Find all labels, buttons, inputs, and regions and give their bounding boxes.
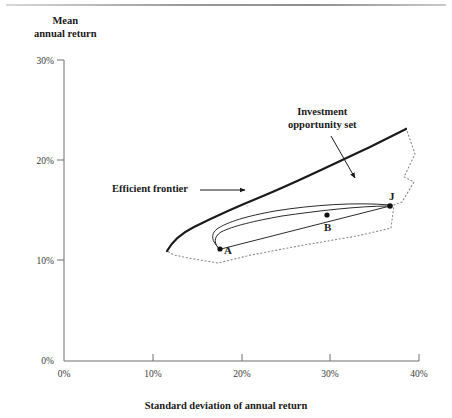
y-tick-10: 10% bbox=[37, 256, 55, 266]
y-axis-ticks bbox=[57, 60, 64, 260]
y-tick-0: 0% bbox=[41, 356, 54, 366]
x-tick-20: 20% bbox=[233, 369, 251, 379]
opportunity-set-boundary bbox=[167, 128, 415, 263]
x-tick-30: 30% bbox=[321, 369, 339, 379]
x-tick-40: 40% bbox=[410, 369, 428, 379]
portfolio-curve-upper bbox=[213, 204, 390, 248]
chart-figure: Mean annual return Standard deviation of… bbox=[0, 0, 452, 418]
y-tick-30: 30% bbox=[37, 56, 55, 66]
marker-a bbox=[217, 246, 222, 251]
axis-lines bbox=[64, 60, 419, 361]
y-tick-labels: 0% 10% 20% 30% bbox=[37, 56, 55, 366]
x-tick-labels: 0% 10% 20% 30% 40% bbox=[58, 369, 428, 379]
x-tick-0: 0% bbox=[58, 369, 71, 379]
scan-speck bbox=[246, 205, 248, 207]
x-axis-ticks bbox=[153, 354, 419, 361]
chart-canvas: 0% 10% 20% 30% 0% 10% 20% 30% 40% bbox=[0, 0, 452, 418]
investment-set-leader bbox=[331, 136, 355, 178]
marker-j bbox=[387, 203, 393, 209]
x-tick-10: 10% bbox=[144, 369, 162, 379]
y-tick-20: 20% bbox=[37, 156, 55, 166]
marker-b bbox=[324, 212, 329, 217]
